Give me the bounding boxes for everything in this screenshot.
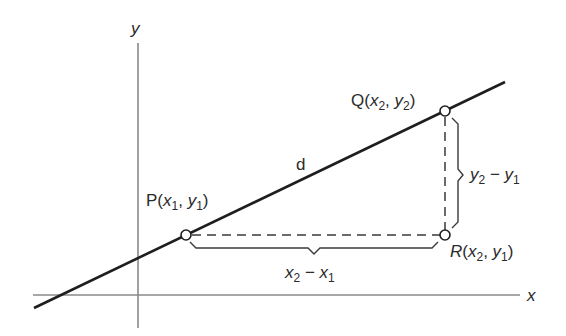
point-r bbox=[440, 230, 450, 240]
vd-b-sub: 1 bbox=[513, 173, 520, 187]
point-p bbox=[181, 230, 191, 240]
p-x: x bbox=[162, 191, 172, 210]
x-axis-label: x bbox=[526, 286, 536, 305]
r-sep: , bbox=[483, 242, 492, 261]
r-name: R bbox=[450, 242, 462, 261]
distance-label-d: d bbox=[296, 155, 305, 174]
point-q bbox=[440, 106, 450, 116]
distance-diagram: y x d P(x1, y1) Q(x2, y2) R(x2, y1) x2 −… bbox=[0, 0, 566, 336]
p-close: ) bbox=[203, 191, 209, 210]
vertical-brace bbox=[452, 118, 463, 228]
horizontal-distance-label: x2 − x1 bbox=[284, 263, 335, 285]
r-x: x bbox=[467, 242, 477, 261]
hd-op: − bbox=[300, 263, 319, 282]
hd-a: x bbox=[284, 263, 294, 282]
label-point-p: P(x1, y1) bbox=[146, 191, 209, 213]
q-name: Q bbox=[351, 91, 364, 110]
label-point-r: R(x2, y1) bbox=[450, 242, 513, 264]
q-sep: , bbox=[385, 91, 394, 110]
label-point-q: Q(x2, y2) bbox=[351, 91, 415, 113]
p-name: P bbox=[146, 191, 157, 210]
vertical-distance-label: y2 − y1 bbox=[469, 165, 520, 187]
hd-b-sub: 1 bbox=[328, 271, 335, 285]
horizontal-brace bbox=[190, 242, 438, 254]
q-x: x bbox=[369, 91, 379, 110]
q-close: ) bbox=[410, 91, 416, 110]
hd-b: x bbox=[319, 263, 329, 282]
vd-op: − bbox=[485, 165, 504, 184]
p-sep: , bbox=[178, 191, 187, 210]
y-axis-label: y bbox=[130, 19, 141, 38]
r-close: ) bbox=[508, 242, 514, 261]
line-pq bbox=[34, 82, 505, 308]
